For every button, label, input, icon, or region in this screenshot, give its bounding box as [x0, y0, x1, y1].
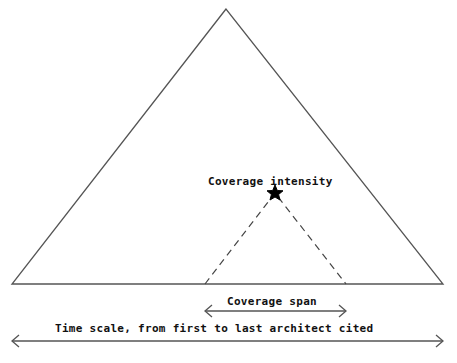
coverage-span-label: Coverage span [227, 295, 317, 308]
time-scale-arrow [12, 335, 443, 347]
outer-triangle [12, 9, 443, 284]
coverage-intensity-label: Coverage intensity [208, 175, 333, 188]
inner-dashed-triangle [205, 193, 346, 284]
time-scale-label: Time scale, from first to last architect… [55, 322, 373, 335]
